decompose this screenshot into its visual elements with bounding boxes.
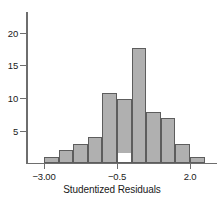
x-tick-neg3: [44, 163, 45, 169]
y-tick-label-15: 15: [0, 61, 18, 71]
histogram-bar: [88, 137, 103, 163]
y-tick-label-20: 20: [0, 29, 18, 39]
y-tick-label-5: 5: [0, 127, 18, 137]
bar-base-notch: [117, 153, 132, 162]
histogram-bar: [146, 112, 161, 163]
histogram-bar: [161, 118, 176, 163]
histogram-bar: [102, 93, 117, 163]
x-tick-label-2: 2.0: [184, 172, 197, 182]
x-tick-neg05: [117, 163, 118, 169]
histogram-bar: [59, 150, 74, 163]
histogram-bar: [44, 157, 59, 163]
histogram-chart: 20 15 10 5 −3.00 −0.5 2.0 Studentized Re…: [0, 0, 224, 203]
x-tick-label-neg3: −3.00: [32, 172, 55, 182]
x-tick-2: [190, 163, 191, 169]
x-tick-label-neg05: −0.5: [108, 172, 126, 182]
x-axis-title: Studentized Residuals: [0, 184, 224, 195]
bars-layer: [26, 10, 217, 163]
histogram-bar: [132, 48, 147, 163]
histogram-bar: [73, 144, 88, 163]
y-tick-label-10: 10: [0, 94, 18, 104]
histogram-bar: [190, 157, 205, 163]
histogram-bar: [175, 144, 190, 163]
